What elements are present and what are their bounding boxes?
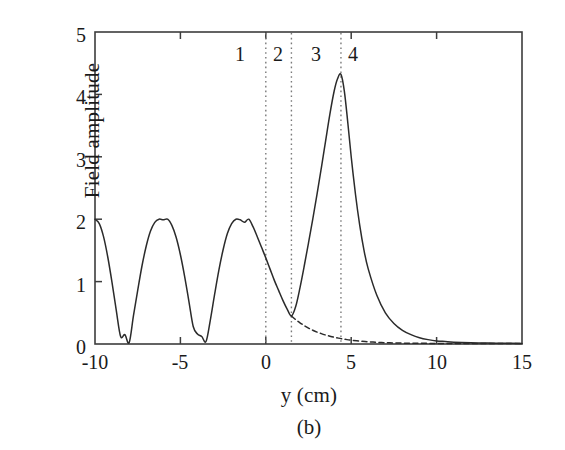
plot-frame bbox=[95, 32, 522, 344]
figure-caption: (b) bbox=[95, 415, 523, 440]
y-tick-label-1: 1 bbox=[52, 275, 86, 295]
series-line-decaying-field bbox=[291, 316, 522, 344]
figure-panel-b: Field amplitude y (cm) (b) 5 4 3 2 1 0 -… bbox=[0, 0, 565, 450]
region-label-1: 1 bbox=[220, 44, 260, 64]
x-tick-label--10: -10 bbox=[65, 352, 125, 372]
x-tick-label-0: 0 bbox=[236, 352, 296, 372]
region-label-3: 3 bbox=[296, 44, 336, 64]
y-axis-label: Field amplitude bbox=[80, 31, 105, 231]
x-axis-label: y (cm) bbox=[95, 383, 523, 408]
y-tick-label-5: 5 bbox=[52, 25, 86, 45]
y-tick-label-3: 3 bbox=[52, 150, 86, 170]
x-tick-label-15: 15 bbox=[492, 352, 552, 372]
x-tick-label-10: 10 bbox=[407, 352, 467, 372]
region-label-2: 2 bbox=[258, 44, 298, 64]
x-tick-label-5: 5 bbox=[321, 352, 381, 372]
region-label-4: 4 bbox=[333, 44, 373, 64]
y-tick-label-2: 2 bbox=[52, 212, 86, 232]
x-tick-label--5: -5 bbox=[150, 352, 210, 372]
y-tick-label-4: 4 bbox=[52, 87, 86, 107]
series-line-total-field bbox=[95, 74, 522, 344]
